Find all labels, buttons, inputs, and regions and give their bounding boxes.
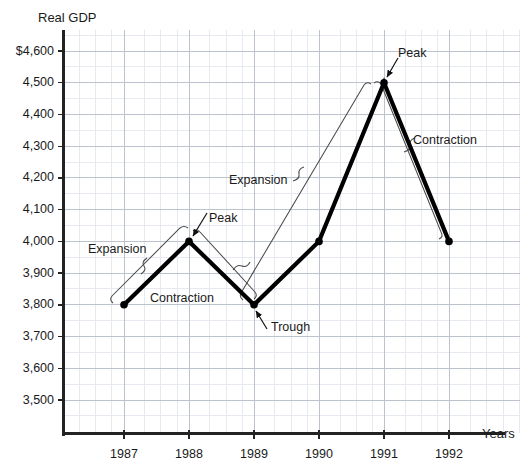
- annotation-peak-1991: Peak: [398, 47, 427, 60]
- x-tick-label-1987: 1987: [94, 448, 154, 461]
- data-point-1990: [315, 238, 323, 246]
- y-tick-label-3800: 3,800: [0, 298, 54, 311]
- data-point-1989: [250, 301, 258, 309]
- data-point-1991: [380, 79, 388, 87]
- business-cycle-line-chart: [0, 0, 531, 471]
- x-tick-label-1991: 1991: [354, 448, 414, 461]
- annotation-trough-1989: Trough: [271, 321, 310, 334]
- y-tick-label-4100: 4,100: [0, 203, 54, 216]
- y-tick-label-4300: 4,300: [0, 140, 54, 153]
- x-tick-label-1992: 1992: [419, 448, 479, 461]
- y-tick-label-4600: $4,600: [0, 45, 54, 58]
- data-point-1988: [185, 238, 193, 246]
- y-tick-label-4500: 4,500: [0, 76, 54, 89]
- x-tick-label-1988: 1988: [159, 448, 219, 461]
- annotation-contraction-2: Contraction: [413, 134, 477, 147]
- x-tick-label-1990: 1990: [289, 448, 349, 461]
- chart-figure: Real GDP Years $4,600 4,500 4,400 4,300 …: [0, 0, 531, 471]
- y-tick-label-4000: 4,000: [0, 235, 54, 248]
- y-tick-label-3700: 3,700: [0, 330, 54, 343]
- x-axis-title: Years: [482, 427, 515, 440]
- y-tick-label-4200: 4,200: [0, 171, 54, 184]
- y-tick-label-3900: 3,900: [0, 267, 54, 280]
- y-tick-label-4400: 4,400: [0, 108, 54, 121]
- y-tick-label-3600: 3,600: [0, 362, 54, 375]
- y-tick-label-3500: 3,500: [0, 394, 54, 407]
- y-axis-title: Real GDP: [38, 11, 97, 24]
- annotation-expansion-1: Expansion: [88, 243, 146, 256]
- annotation-expansion-2: Expansion: [229, 174, 287, 187]
- x-tick-label-1989: 1989: [224, 448, 284, 461]
- annotation-contraction-1: Contraction: [150, 292, 214, 305]
- data-point-1992: [445, 238, 453, 246]
- data-point-1987: [120, 301, 128, 309]
- annotation-peak-1988: Peak: [209, 212, 238, 225]
